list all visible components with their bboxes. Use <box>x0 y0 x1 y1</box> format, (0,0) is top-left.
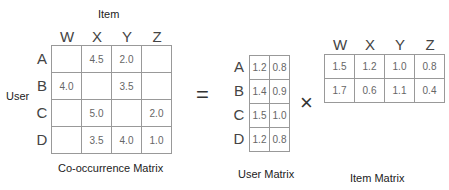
cell <box>142 73 172 100</box>
item-axis-label: Item <box>98 8 119 20</box>
cooccurrence-matrix: 4.5 2.0 4.0 3.5 5.0 2.0 3.5 4.0 1.0 <box>51 45 172 154</box>
item-col-x: X <box>355 36 385 53</box>
cell: 0.8 <box>415 55 445 79</box>
col-header-z: Z <box>142 28 172 45</box>
equals-symbol: = <box>196 82 209 108</box>
cell <box>112 100 142 127</box>
cell <box>52 46 82 73</box>
cell: 1.0 <box>385 55 415 79</box>
cell: 1.2 <box>250 128 270 152</box>
cell: 0.8 <box>270 128 290 152</box>
cell: 1.0 <box>142 127 172 154</box>
item-matrix: 1.5 1.2 1.0 0.8 1.7 0.6 1.1 0.4 <box>324 54 445 103</box>
cell: 1.4 <box>250 80 270 104</box>
item-col-y: Y <box>385 36 415 53</box>
cell: 1.0 <box>270 104 290 128</box>
cell <box>82 73 112 100</box>
cell: 1.5 <box>250 104 270 128</box>
item-col-z: Z <box>415 36 445 53</box>
cell: 0.9 <box>270 80 290 104</box>
user-matrix-title: User Matrix <box>238 168 294 180</box>
cell: 0.4 <box>415 79 445 103</box>
user-row-d: D <box>232 130 246 147</box>
col-header-w: W <box>52 28 82 45</box>
cooccurrence-title: Co-occurrence Matrix <box>58 162 163 174</box>
user-axis-label: User <box>6 90 29 102</box>
cell: 1.2 <box>250 56 270 80</box>
row-header-d: D <box>35 131 49 148</box>
cell: 2.0 <box>112 46 142 73</box>
cell: 2.0 <box>142 100 172 127</box>
row-header-a: A <box>35 50 49 67</box>
user-row-a: A <box>232 58 246 75</box>
cell: 1.7 <box>325 79 355 103</box>
cell <box>52 100 82 127</box>
cell: 0.8 <box>270 56 290 80</box>
cell: 4.5 <box>82 46 112 73</box>
user-row-c: C <box>232 106 246 123</box>
row-header-c: C <box>35 104 49 121</box>
cell: 3.5 <box>82 127 112 154</box>
item-col-w: W <box>325 36 355 53</box>
cell: 0.6 <box>355 79 385 103</box>
cell: 4.0 <box>52 73 82 100</box>
cell: 3.5 <box>112 73 142 100</box>
times-symbol: × <box>300 90 313 116</box>
cell: 1.5 <box>325 55 355 79</box>
user-matrix: 1.2 0.8 1.4 0.9 1.5 1.0 1.2 0.8 <box>249 55 290 152</box>
row-header-b: B <box>35 77 49 94</box>
cell <box>52 127 82 154</box>
cell <box>142 46 172 73</box>
cell: 4.0 <box>112 127 142 154</box>
item-matrix-title: Item Matrix <box>350 172 404 184</box>
cell: 1.2 <box>355 55 385 79</box>
col-header-x: X <box>82 28 112 45</box>
cell: 1.1 <box>385 79 415 103</box>
col-header-y: Y <box>112 28 142 45</box>
user-row-b: B <box>232 82 246 99</box>
cell: 5.0 <box>82 100 112 127</box>
